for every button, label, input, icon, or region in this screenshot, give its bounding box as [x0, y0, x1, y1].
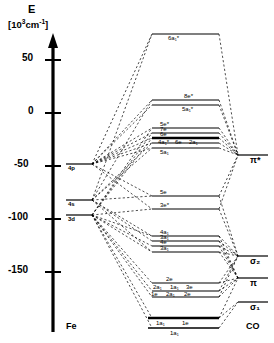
axis-unit-prefix: [10	[8, 19, 22, 30]
co-level-label-pi-star: π*	[250, 156, 260, 165]
mo-level-label: 1a₁	[170, 330, 179, 336]
mo-level-label: 3e*	[160, 202, 169, 208]
axis-unit-mid: cm	[25, 19, 39, 30]
mo-level-label: 5a₁*	[182, 106, 193, 112]
mo-level-label: 2a₁	[153, 284, 162, 290]
co-level-label-pi: π	[250, 279, 257, 288]
mo-level-label: 5a₁	[160, 149, 169, 155]
mo-level-label: 2a₁	[166, 291, 175, 297]
mo-diagram: E [103cm-1] 50 0 -50 -100 -150 4p 4s 3d …	[0, 0, 274, 343]
mo-level-label: 5e	[160, 189, 167, 195]
fe-level-label-4p: 4p	[68, 165, 75, 171]
diagram-canvas	[0, 0, 274, 343]
mo-level-label: 3a₁	[160, 245, 169, 251]
mo-level-label: 4a₁*	[158, 139, 169, 145]
mo-level-label: 2e	[166, 276, 173, 282]
mo-level-label: 6e	[160, 131, 167, 137]
axis-tick-label: 0	[28, 106, 34, 116]
axis-tick-label: -100	[8, 212, 28, 222]
column-label-fe: Fe	[66, 322, 77, 331]
co-level-label-sigma1: σ₁	[250, 303, 260, 312]
axis-tick-label: -150	[8, 265, 28, 275]
mo-level-label: 1e	[182, 320, 189, 326]
mo-level-label: 6e	[175, 139, 182, 145]
mo-level-label: 1a₁	[156, 320, 165, 326]
mo-level-label: 1a₁	[170, 284, 179, 290]
axis-tick-label: -50	[14, 159, 28, 169]
fe-level-label-4s: 4s	[68, 201, 75, 207]
axis-tick-label: 50	[22, 53, 33, 63]
mo-level-label: 3e	[186, 284, 193, 290]
column-label-co: CO	[246, 322, 260, 331]
mo-level-label: 6a₁*	[168, 35, 179, 41]
mo-level-label: 2e	[184, 291, 191, 297]
mo-level-label: 2a₁	[189, 139, 198, 145]
axis-unit: [103cm-1]	[8, 19, 48, 30]
mo-level-label: 1e	[151, 291, 158, 297]
co-level-label-sigma2: σ₂	[250, 257, 260, 266]
correlation-lines-left	[92, 34, 152, 328]
energy-axis	[45, 33, 61, 332]
correlation-lines-right	[219, 34, 238, 328]
fe-level-label-3d: 3d	[68, 216, 75, 222]
fe-level-lines	[66, 164, 92, 215]
mo-level-label: 8e*	[184, 93, 193, 99]
axis-unit-suffix: ]	[45, 19, 48, 30]
axis-title: E	[28, 4, 35, 15]
